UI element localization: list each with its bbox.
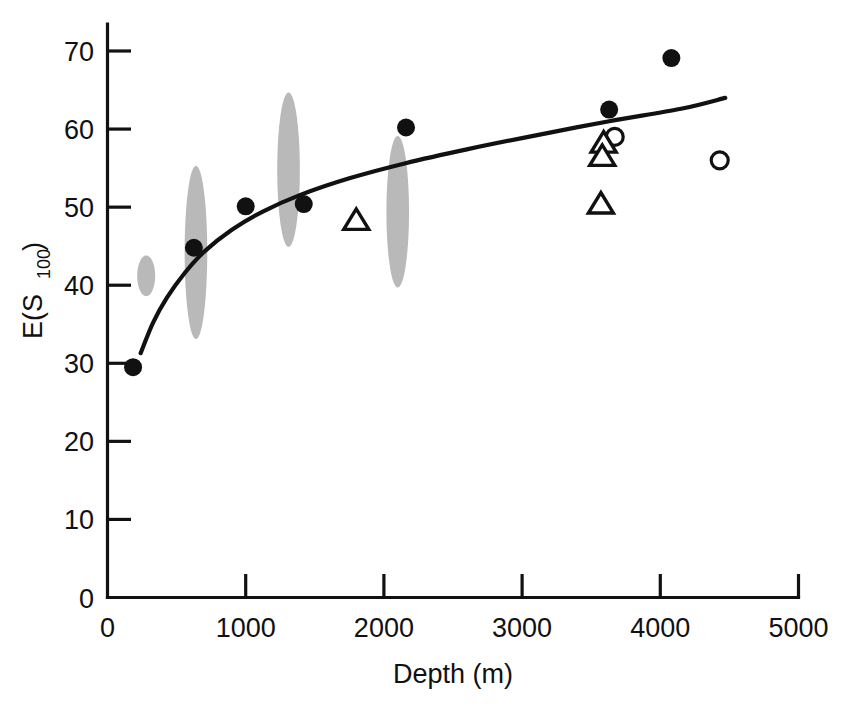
marker-open-triangle [344, 209, 369, 229]
x-tick-label-2000: 2000 [354, 613, 414, 643]
uncertainty-bands [137, 92, 409, 339]
y-axis-title-subscript: 100 [34, 249, 54, 279]
y-tick-label-40: 40 [64, 271, 94, 301]
chart-figure: 010203040506070 010002000300040005000 De… [0, 0, 843, 715]
marker-filled-circle [600, 101, 618, 119]
y-tick-label-70: 70 [64, 37, 94, 67]
x-axis-title: Depth (m) [393, 659, 513, 689]
x-tick-label-1000: 1000 [216, 613, 276, 643]
y-axis-tick-labels: 010203040506070 [64, 37, 94, 614]
marker-filled-circle [124, 358, 142, 376]
scatter-plot: 010203040506070 010002000300040005000 De… [0, 0, 843, 715]
marker-filled-circle [397, 119, 415, 137]
marker-filled-circle [237, 197, 255, 215]
fit-curve [141, 98, 726, 353]
data-markers [124, 49, 728, 376]
marker-open-circle [711, 152, 728, 169]
y-axis-ticks [108, 51, 132, 519]
x-tick-label-3000: 3000 [492, 613, 552, 643]
plot-axes [108, 24, 799, 598]
y-tick-label-50: 50 [64, 193, 94, 223]
x-tick-label-0: 0 [100, 613, 115, 643]
y-axis-title-main: E(S [18, 294, 48, 339]
y-tick-label-0: 0 [79, 584, 94, 614]
y-tick-label-60: 60 [64, 115, 94, 145]
x-axis-tick-labels: 010002000300040005000 [100, 613, 829, 643]
x-axis-ticks [246, 574, 799, 598]
y-tick-label-20: 20 [64, 427, 94, 457]
marker-filled-circle [662, 49, 680, 67]
band-3 [277, 92, 300, 247]
x-tick-label-5000: 5000 [768, 613, 828, 643]
marker-filled-circle [295, 195, 313, 213]
band-1 [137, 256, 155, 297]
y-tick-label-30: 30 [64, 349, 94, 379]
x-tick-label-4000: 4000 [630, 613, 690, 643]
y-tick-label-10: 10 [64, 505, 94, 535]
marker-filled-circle [185, 239, 203, 257]
band-4 [386, 136, 409, 287]
marker-open-triangle [588, 193, 613, 213]
y-axis-title-tail: ) [18, 242, 48, 251]
y-axis-title: E(S 100 ) [18, 242, 54, 339]
